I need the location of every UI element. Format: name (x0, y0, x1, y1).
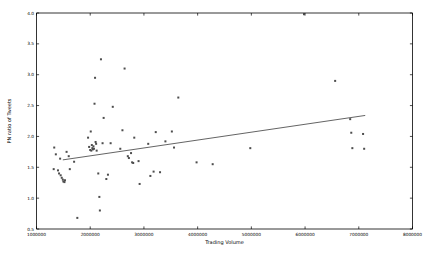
scatter-point (96, 150, 98, 152)
scatter-point (88, 146, 90, 148)
scatter-point (155, 131, 157, 133)
scatter-point (149, 175, 151, 177)
scatter-point (362, 133, 364, 135)
scatter-point (121, 129, 123, 131)
scatter-point (132, 162, 134, 164)
y-tick-label: 2.0 (27, 134, 34, 139)
scatter-point (349, 118, 351, 120)
scatter-point (164, 140, 166, 142)
scatter-point (99, 209, 101, 211)
scatter-point (68, 155, 70, 157)
scatter-point (62, 179, 64, 181)
scatter-point (55, 153, 57, 155)
scatter-point (69, 168, 71, 170)
y-tick-label: 0.5 (27, 227, 34, 232)
scatter-point (124, 68, 126, 70)
y-tick-label: 2.5 (27, 103, 34, 108)
x-tick-label: 5000000 (242, 232, 261, 237)
x-axis-title: Trading Volume (204, 239, 244, 246)
scatter-point (159, 171, 161, 173)
scatter-point (94, 77, 96, 79)
figure-background (0, 0, 441, 255)
scatter-point (128, 157, 130, 159)
x-tick-label: 7000000 (349, 232, 368, 237)
scatter-point (249, 147, 251, 149)
scatter-point (110, 142, 112, 144)
scatter-point (119, 148, 121, 150)
scatter-point (87, 137, 89, 139)
scatter-point (58, 172, 60, 174)
scatter-point (196, 161, 198, 163)
scatter-point (139, 183, 141, 185)
scatter-point (173, 147, 175, 149)
scatter-point (171, 130, 173, 132)
scatter-point (103, 117, 105, 119)
scatter-point (57, 169, 59, 171)
y-tick-label: 1.5 (27, 165, 34, 170)
x-tick-label: 1000000 (27, 232, 46, 237)
scatter-point (363, 148, 365, 150)
scatter-point (350, 132, 352, 134)
scatter-point (102, 142, 104, 144)
x-tick-label: 8000000 (403, 232, 422, 237)
scatter-point (334, 80, 336, 82)
scatter-point (53, 147, 55, 149)
x-tick-label: 3000000 (134, 232, 153, 237)
scatter-point (66, 151, 68, 153)
y-tick-label: 1.0 (27, 196, 34, 201)
scatter-point (177, 97, 179, 99)
scatter-point (107, 174, 109, 176)
x-tick-label: 6000000 (296, 232, 315, 237)
scatter-point (93, 148, 95, 150)
scatter-point (63, 181, 65, 183)
scatter-point (73, 161, 75, 163)
scatter-point (95, 143, 97, 145)
scatter-point (53, 168, 55, 170)
scatter-point (97, 172, 99, 174)
scatter-point (138, 160, 140, 162)
y-tick-label: 3.5 (27, 41, 34, 46)
scatter-point (351, 147, 353, 149)
x-tick-label: 2000000 (81, 232, 100, 237)
scatter-point (94, 103, 96, 105)
scatter-point (98, 196, 100, 198)
scatter-point (59, 158, 61, 160)
scatter-point (90, 130, 92, 132)
scatter-point (105, 178, 107, 180)
scatter-point (212, 163, 214, 165)
scatter-point (153, 171, 155, 173)
scatter-plot-figure: 1000000200000030000004000000500000060000… (0, 0, 441, 255)
scatter-point (133, 137, 135, 139)
x-tick-label: 4000000 (188, 232, 207, 237)
scatter-point (130, 152, 132, 154)
y-axis-title: PN ratio of Tweets (6, 98, 12, 143)
scatter-point (64, 179, 66, 181)
scatter-point (95, 141, 97, 143)
plot-canvas: 1000000200000030000004000000500000060000… (0, 0, 441, 255)
scatter-point (100, 58, 102, 60)
scatter-point (92, 145, 94, 147)
scatter-point (127, 155, 129, 157)
scatter-point (61, 177, 63, 179)
y-tick-label: 4.0 (27, 11, 34, 16)
scatter-point (60, 174, 62, 176)
scatter-point (147, 143, 149, 145)
scatter-point (76, 217, 78, 219)
y-tick-label: 3.0 (27, 72, 34, 77)
scatter-point (112, 106, 114, 108)
scatter-point (303, 13, 305, 15)
